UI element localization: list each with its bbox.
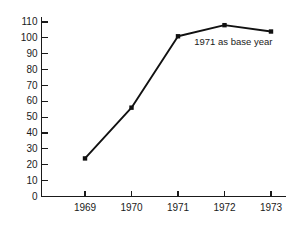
data-point-1972 [222, 23, 226, 27]
y-tick-label-100: 100 [21, 32, 38, 43]
x-tick-label-1971: 1971 [167, 202, 190, 213]
y-tick-label-90: 90 [26, 48, 38, 59]
y-tick-label-60: 60 [26, 95, 38, 106]
data-point-1971 [176, 34, 180, 38]
y-tick-label-110: 110 [22, 16, 38, 27]
y-tick-label-20: 20 [26, 159, 38, 170]
y-tick-label-40: 40 [26, 127, 38, 138]
y-axis-tick-labels: 0102030405060708090100110 [21, 16, 38, 202]
line-chart: 0102030405060708090100110 19691970197119… [0, 0, 299, 227]
data-point-1973 [269, 29, 273, 33]
y-axis-ticks [42, 22, 48, 197]
x-axis-ticks [85, 191, 271, 197]
data-point-1969 [83, 156, 87, 160]
x-tick-label-1973: 1973 [260, 202, 283, 213]
data-point-1970 [129, 105, 133, 109]
y-tick-label-50: 50 [26, 111, 38, 122]
y-tick-label-10: 10 [26, 175, 38, 186]
y-tick-label-30: 30 [26, 143, 38, 154]
y-tick-label-0: 0 [32, 191, 38, 202]
y-axis-group: 0102030405060708090100110 [21, 16, 48, 202]
x-tick-label-1972: 1972 [213, 202, 236, 213]
x-axis-group: 19691970197119721973 [42, 191, 287, 213]
x-tick-label-1969: 1969 [74, 202, 97, 213]
y-tick-label-80: 80 [26, 64, 38, 75]
x-axis-tick-labels: 19691970197119721973 [74, 202, 283, 213]
chart-annotations: 1971 as base year [194, 36, 272, 47]
y-tick-label-70: 70 [26, 80, 38, 91]
x-tick-label-1970: 1970 [120, 202, 143, 213]
annotation-text-0: 1971 as base year [194, 36, 272, 47]
chart-figure: 0102030405060708090100110 19691970197119… [0, 0, 299, 227]
